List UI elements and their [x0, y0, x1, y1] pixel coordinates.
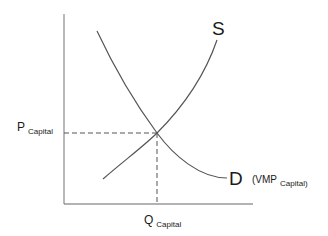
price-axis-label: PCapital — [17, 120, 53, 134]
demand-annotation-sub: Capital) — [280, 179, 308, 188]
supply-curve — [103, 40, 217, 179]
quantity-label-sub: Capital — [156, 220, 181, 229]
diagram-canvas — [0, 0, 328, 236]
price-label-sub: Capital — [28, 127, 53, 136]
demand-annotation-main: (VMP — [252, 174, 277, 185]
quantity-axis-label: QCapital — [144, 213, 181, 227]
price-label-main: P — [17, 120, 25, 134]
demand-label: D — [229, 168, 243, 190]
supply-label: S — [212, 18, 225, 40]
demand-curve — [97, 31, 227, 178]
demand-annotation: (VMPCapital) — [252, 174, 308, 185]
quantity-label-main: Q — [144, 213, 153, 227]
